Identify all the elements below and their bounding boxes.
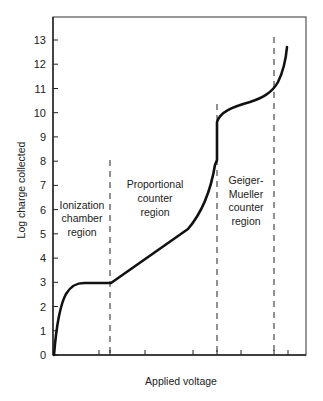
- y-tick-7: 7: [40, 179, 46, 191]
- y-tick-9: 9: [40, 131, 46, 143]
- svg-text:chamber: chamber: [62, 212, 103, 224]
- svg-text:region: region: [231, 215, 260, 227]
- y-tick-10: 10: [34, 107, 46, 119]
- region-label-proportional: Proportional counter region: [127, 178, 184, 218]
- y-tick-4: 4: [40, 252, 46, 264]
- y-tick-1: 1: [40, 325, 46, 337]
- svg-text:Mueller: Mueller: [229, 188, 264, 200]
- y-tick-5: 5: [40, 228, 46, 240]
- svg-text:region: region: [140, 206, 169, 218]
- chart: 0 1 2 3 4 5 6 7 8 9 10 11 12 13 Ionizati…: [0, 0, 323, 401]
- y-tick-13: 13: [34, 34, 46, 46]
- svg-text:counter: counter: [228, 201, 264, 213]
- svg-text:Geiger-: Geiger-: [228, 174, 264, 186]
- y-tick-3: 3: [40, 276, 46, 288]
- svg-text:region: region: [67, 226, 96, 238]
- region-label-ionization: Ionization chamber region: [60, 199, 105, 238]
- x-axis-title: Applied voltage: [145, 375, 217, 387]
- x-ticks: [99, 350, 288, 355]
- y-ticks: [53, 40, 58, 355]
- y-tick-0: 0: [40, 349, 46, 361]
- y-tick-11: 11: [35, 83, 46, 95]
- y-axis-title: Log charge collected: [15, 141, 27, 238]
- svg-text:Ionization: Ionization: [60, 199, 105, 211]
- svg-text:Proportional: Proportional: [127, 178, 184, 190]
- y-tick-2: 2: [40, 301, 46, 313]
- region-label-geiger: Geiger- Mueller counter region: [228, 174, 264, 227]
- y-tick-labels: 0 1 2 3 4 5 6 7 8 9 10 11 12 13: [34, 34, 46, 361]
- y-tick-12: 12: [34, 58, 46, 70]
- svg-text:counter: counter: [137, 192, 173, 204]
- y-tick-6: 6: [40, 204, 46, 216]
- y-tick-8: 8: [40, 155, 46, 167]
